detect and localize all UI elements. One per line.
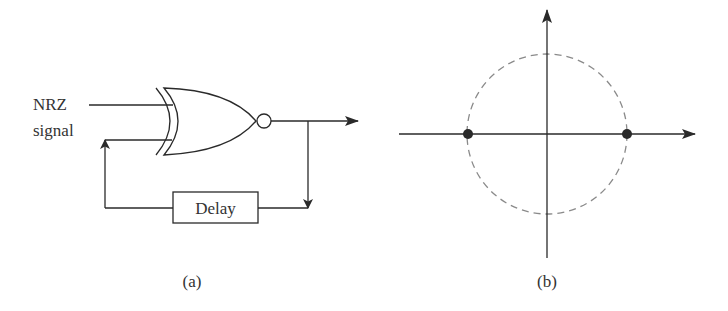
constellation-point-plus-one <box>622 129 632 139</box>
delay-label: Delay <box>195 199 236 218</box>
caption-b: (b) <box>537 272 557 291</box>
xnor-gate-icon <box>156 88 271 155</box>
input-label-signal: signal <box>33 121 74 140</box>
panel-b-constellation: (b) <box>399 10 695 291</box>
inverter-bubble <box>257 114 271 128</box>
xor-extra-arc <box>156 88 170 155</box>
diagram-canvas: NRZ signal Delay (a) (b) <box>0 0 728 311</box>
caption-a: (a) <box>183 272 202 291</box>
constellation-point-minus-one <box>463 129 473 139</box>
input-label-nrz: NRZ <box>33 95 67 114</box>
panel-a-encoder: NRZ signal Delay (a) <box>33 88 358 291</box>
or-gate-body <box>164 88 256 155</box>
